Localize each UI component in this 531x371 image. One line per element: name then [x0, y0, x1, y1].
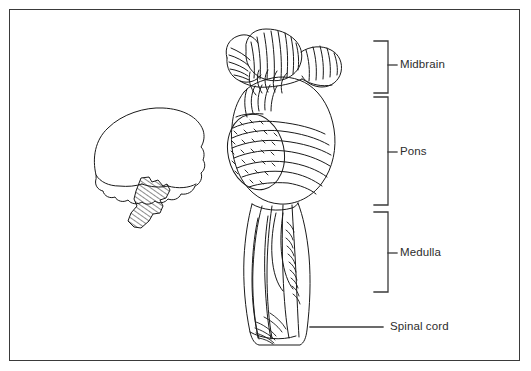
pons-region: [221, 70, 335, 204]
midbrain-region: [226, 29, 341, 87]
brainstem-main-drawing: [221, 29, 342, 345]
medulla-region: [244, 203, 310, 345]
olive-hatching: [286, 222, 300, 304]
label-medulla: Medulla: [400, 246, 441, 258]
label-brackets: [310, 41, 397, 327]
figure-page: Midbrain Pons Medulla Spinal cord: [0, 0, 531, 371]
bracket-medulla: [374, 212, 397, 292]
label-midbrain: Midbrain: [400, 58, 445, 70]
bracket-pons: [374, 97, 397, 205]
label-pons: Pons: [400, 145, 427, 157]
label-spinal-cord: Spinal cord: [390, 320, 449, 332]
bracket-midbrain: [374, 41, 397, 93]
brainstem-illustration: [0, 0, 531, 371]
